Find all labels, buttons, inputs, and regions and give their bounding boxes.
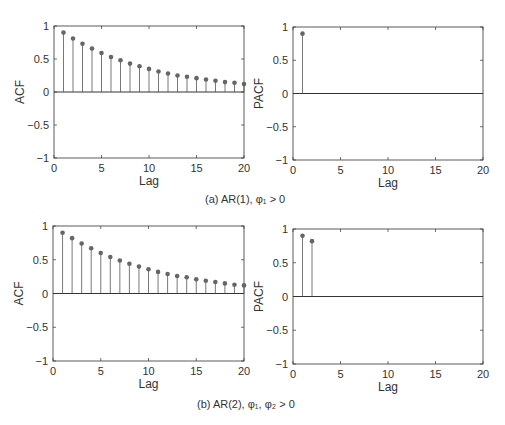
- stem-marker: [232, 282, 237, 287]
- x-tick-label: 0: [50, 365, 56, 377]
- x-tick-label: 15: [190, 162, 202, 174]
- y-tick-label: −1: [35, 355, 48, 367]
- y-tick-label: 0.5: [273, 54, 288, 66]
- y-axis-label: PACF: [252, 78, 266, 109]
- y-axis-label: PACF: [252, 281, 266, 312]
- y-tick-label: 0: [43, 86, 49, 98]
- x-tick-label: 20: [238, 365, 250, 377]
- stem-marker: [60, 230, 65, 235]
- stem-marker: [223, 281, 228, 286]
- x-tick-label: 10: [143, 162, 155, 174]
- x-tick-label: 0: [51, 162, 57, 174]
- y-tick-label: 1: [43, 20, 49, 32]
- x-tick-label: 0: [290, 164, 296, 176]
- x-axis-label: Lag: [139, 174, 159, 188]
- stem-marker: [165, 272, 170, 277]
- stem-marker: [108, 255, 113, 260]
- stem-marker: [300, 31, 305, 36]
- stem-marker: [166, 71, 171, 76]
- y-tick-label: 0: [282, 291, 288, 303]
- figure-canvas: 05101520−1−0.500.51LagACF05101520−1−0.50…: [0, 0, 505, 425]
- stem-marker: [310, 239, 315, 244]
- y-axis-label: ACF: [12, 282, 26, 306]
- x-axis-label: Lag: [378, 380, 398, 394]
- stem-marker: [175, 73, 180, 78]
- x-tick-label: 5: [337, 368, 343, 380]
- x-tick-label: 5: [98, 365, 104, 377]
- stem-marker: [118, 258, 123, 263]
- stem-marker: [204, 278, 209, 283]
- x-tick-label: 0: [290, 368, 296, 380]
- stem-marker: [175, 274, 180, 279]
- stem-marker: [242, 283, 247, 288]
- stem-marker: [223, 80, 228, 85]
- y-tick-label: −0.5: [266, 121, 288, 133]
- x-tick-label: 10: [382, 164, 394, 176]
- stem-marker: [98, 251, 103, 256]
- stem-marker: [79, 241, 84, 246]
- stem-marker: [80, 42, 85, 47]
- stem-marker: [71, 36, 76, 41]
- stem-marker: [89, 246, 94, 251]
- stem-marker: [99, 51, 104, 56]
- y-tick-label: −0.5: [27, 119, 49, 131]
- stem-marker: [156, 69, 161, 74]
- stem-marker: [147, 67, 152, 72]
- stem-marker: [137, 264, 142, 269]
- stem-marker: [137, 64, 142, 69]
- stem-marker: [127, 262, 132, 267]
- stem-marker: [185, 75, 190, 80]
- x-tick-label: 10: [142, 365, 154, 377]
- x-tick-label: 15: [190, 365, 202, 377]
- stem-marker: [61, 30, 66, 35]
- caption-a: (a) AR(1), φ₁ > 0: [205, 193, 285, 205]
- x-tick-label: 15: [429, 368, 441, 380]
- y-tick-label: −1: [36, 152, 49, 164]
- y-tick-label: 0: [42, 288, 48, 300]
- stem-marker: [232, 80, 237, 85]
- x-tick-label: 15: [429, 164, 441, 176]
- y-tick-label: 0.5: [34, 53, 49, 65]
- x-tick-label: 20: [477, 164, 489, 176]
- stem-marker: [90, 46, 95, 51]
- x-tick-label: 5: [98, 162, 104, 174]
- y-tick-label: 0: [282, 88, 288, 100]
- y-tick-label: 0.5: [33, 254, 48, 266]
- x-tick-label: 20: [477, 368, 489, 380]
- y-tick-label: 0.5: [273, 257, 288, 269]
- y-tick-label: −0.5: [266, 324, 288, 336]
- x-tick-label: 5: [337, 164, 343, 176]
- stem-marker: [128, 61, 133, 66]
- stem-marker: [146, 267, 151, 272]
- y-axis-label: ACF: [13, 80, 27, 104]
- y-tick-label: −0.5: [26, 321, 48, 333]
- caption-b: (b) AR(2), φ₁, φ₂ > 0: [197, 398, 295, 410]
- stem-marker: [213, 280, 218, 285]
- x-axis-label: Lag: [138, 377, 158, 391]
- y-tick-label: −1: [275, 358, 288, 370]
- stem-marker: [242, 82, 247, 87]
- stem-marker: [109, 55, 114, 60]
- stem-marker: [184, 275, 189, 280]
- stem-marker: [300, 233, 305, 238]
- stem-marker: [194, 76, 199, 81]
- y-tick-label: 1: [282, 223, 288, 235]
- y-tick-label: −1: [275, 154, 288, 166]
- y-tick-label: 1: [282, 21, 288, 33]
- stem-marker: [204, 77, 209, 82]
- stem-marker: [213, 78, 218, 83]
- x-tick-label: 10: [382, 368, 394, 380]
- y-tick-label: 1: [42, 220, 48, 232]
- stem-marker: [194, 277, 199, 282]
- stem-marker: [118, 58, 123, 63]
- stem-marker: [70, 236, 75, 241]
- x-axis-label: Lag: [378, 176, 398, 190]
- x-tick-label: 20: [238, 162, 250, 174]
- stem-marker: [156, 270, 161, 275]
